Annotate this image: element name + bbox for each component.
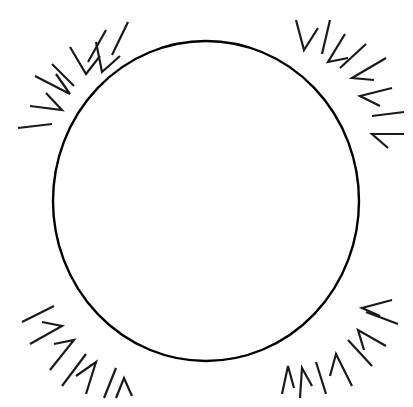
word-search-puzzle [0,0,413,407]
letter-grid [0,0,413,407]
